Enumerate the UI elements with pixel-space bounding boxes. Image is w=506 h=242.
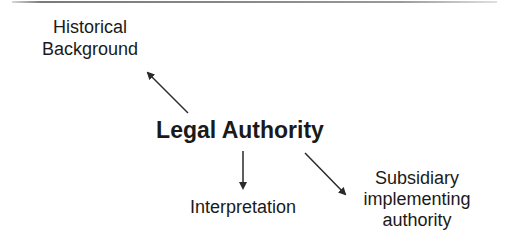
node-legal-authority: Legal Authority <box>140 116 340 144</box>
node-label-line: Interpretation <box>173 196 313 218</box>
node-subsidiary-implementing-authority: Subsidiary implementing authority <box>352 168 482 231</box>
top-divider-rule <box>12 1 497 3</box>
arrow-to-subsidiary-authority <box>305 153 345 194</box>
center-node-label: Legal Authority <box>140 116 340 144</box>
arrow-to-historical-background <box>148 73 188 113</box>
node-interpretation: Interpretation <box>173 196 313 218</box>
node-label-line: Subsidiary <box>352 168 482 189</box>
node-label-line: authority <box>352 210 482 231</box>
node-historical-background: Historical Background <box>28 16 152 60</box>
node-label-line: Historical <box>28 16 152 38</box>
node-label-line: implementing <box>352 189 482 210</box>
diagram-canvas: Historical Background Legal Authority In… <box>0 0 506 242</box>
node-label-line: Background <box>28 38 152 60</box>
